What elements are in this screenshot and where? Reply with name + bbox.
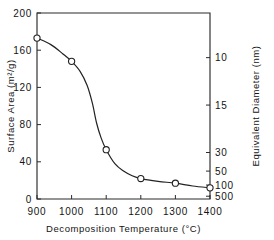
chart-plot: 90010001100120013001400 04080120160200 1… (0, 0, 274, 240)
y-tick-label: 160 (13, 45, 32, 56)
x-tick-label: 900 (28, 206, 47, 217)
x-tick-label: 1200 (128, 206, 153, 217)
x-axis-tick-labels: 90010001100120013001400 (28, 206, 223, 217)
y-tick-label: 80 (19, 119, 32, 130)
y2-tick-label: 100 (215, 180, 234, 191)
data-point-marker (207, 185, 213, 191)
y2-tick-label: 15 (215, 100, 228, 111)
y2-tick-label: 10 (215, 52, 228, 63)
y-tick-label: 40 (19, 156, 32, 167)
y2-tick-label: 30 (215, 147, 228, 158)
y-tick-label: 0 (26, 194, 32, 205)
data-point-marker (172, 180, 178, 186)
x-tick-label: 1000 (59, 206, 84, 217)
x-axis-ticks (37, 195, 210, 199)
x-axis-title: Decomposition Temperature (°C) (46, 223, 201, 234)
y-tick-label: 120 (13, 82, 32, 93)
y-axis-right-tick-labels: 10153050100500 (215, 52, 234, 202)
x-tick-label: 1400 (197, 206, 222, 217)
y2-tick-label: 500 (215, 191, 234, 202)
figure-container: 90010001100120013001400 04080120160200 1… (0, 0, 274, 240)
data-point-marker (34, 35, 40, 41)
y-axis-right-title: Equivalent Diameter (nm) (250, 46, 261, 167)
x-tick-label: 1300 (163, 206, 188, 217)
y-axis-left-tick-labels: 04080120160200 (13, 8, 32, 205)
x-tick-label: 1100 (94, 206, 118, 217)
y-axis-right-ticks (206, 58, 210, 197)
y-tick-label: 200 (13, 8, 32, 19)
data-point-marker (69, 58, 75, 64)
data-markers (34, 35, 213, 191)
data-curve (37, 38, 210, 188)
y2-tick-label: 50 (215, 166, 228, 177)
data-point-marker (103, 147, 109, 153)
y-axis-left-title: Surface Area (m²/g) (5, 59, 16, 152)
data-point-marker (138, 175, 144, 181)
